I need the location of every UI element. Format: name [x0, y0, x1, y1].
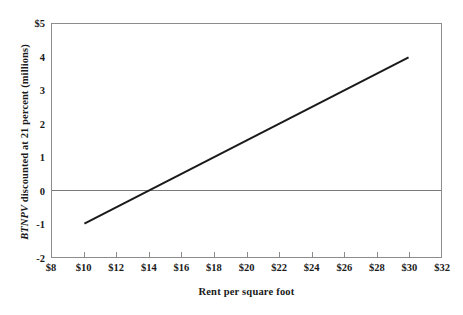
- x-tick-mark-16: [181, 252, 182, 258]
- x-tick-mark-12: [116, 252, 117, 258]
- y-tick-label-1: 1: [3, 153, 45, 164]
- x-tick-label-32: $32: [422, 263, 462, 274]
- x-tick-mark-18: [214, 252, 215, 258]
- x-tick-mark-10: [84, 252, 85, 258]
- y-tick-label-2: 2: [3, 120, 45, 131]
- x-tick-mark-30: [409, 252, 410, 258]
- y-axis-title: BTNPV discounted at 21 percent (millions…: [16, 12, 34, 272]
- plot-canvas: [52, 24, 441, 257]
- x-tick-mark-22: [279, 252, 280, 258]
- y-tick-label-0: 0: [3, 187, 45, 198]
- chart-figure: BTNPV discounted at 21 percent (millions…: [0, 0, 463, 315]
- data-line-btnpv: [84, 57, 408, 223]
- x-tick-mark-28: [377, 252, 378, 258]
- y-tick-label-neg1: -1: [3, 220, 45, 231]
- plot-area: [51, 23, 442, 258]
- x-tick-mark-26: [344, 252, 345, 258]
- x-tick-mark-14: [149, 252, 150, 258]
- x-tick-mark-24: [312, 252, 313, 258]
- y-tick-label-5: $5: [3, 19, 45, 30]
- y-tick-label-4: 4: [3, 53, 45, 64]
- x-axis-title: Rent per square foot: [51, 287, 442, 298]
- x-tick-mark-20: [247, 252, 248, 258]
- y-tick-label-3: 3: [3, 86, 45, 97]
